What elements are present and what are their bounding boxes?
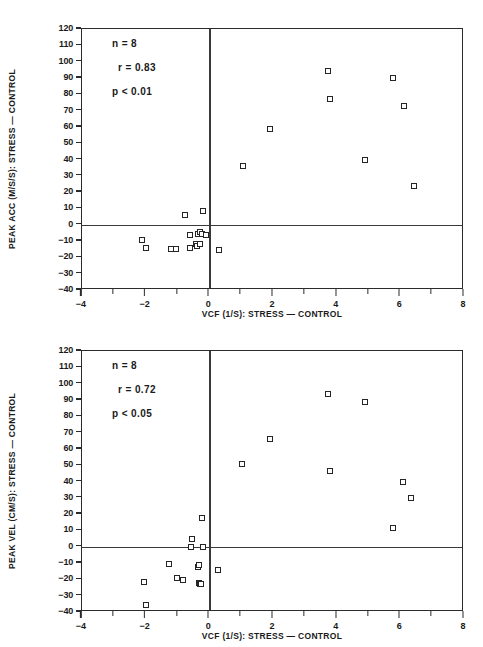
data-point-marker xyxy=(174,575,180,581)
y-tick-label: 50 xyxy=(63,137,76,147)
data-point-marker xyxy=(203,232,209,238)
data-point-marker xyxy=(187,245,193,251)
y-tick: 10 xyxy=(0,202,81,212)
x-tick-mark xyxy=(208,289,209,296)
x-tick xyxy=(431,611,432,616)
y-tick: 10 xyxy=(0,524,81,534)
reference-line-horizontal xyxy=(82,547,462,548)
data-point-marker xyxy=(390,525,396,531)
x-tick-mark xyxy=(240,611,241,616)
y-tick-label: 80 xyxy=(63,88,76,98)
x-tick: 2 xyxy=(269,289,274,309)
data-point-marker xyxy=(325,68,331,74)
x-tick-label: 6 xyxy=(397,299,402,309)
y-tick: −30 xyxy=(0,268,81,278)
data-point-marker xyxy=(239,461,245,467)
y-tick: 40 xyxy=(0,476,81,486)
data-point-marker xyxy=(327,468,333,474)
chart-panel-peak-vel: PEAK VEL (CM/S): STRESS — CONTROL 120110… xyxy=(0,322,483,647)
x-tick-label: 2 xyxy=(269,621,274,631)
y-tick-label: −10 xyxy=(58,557,76,567)
x-tick: −2 xyxy=(140,611,150,631)
y-tick-label: 70 xyxy=(63,427,76,437)
y-tick-label: 80 xyxy=(63,410,76,420)
y-tick-label: 100 xyxy=(59,378,76,388)
y-tick: 20 xyxy=(0,186,81,196)
y-tick-label: −10 xyxy=(58,235,76,245)
x-tick-mark xyxy=(112,289,113,294)
x-tick-label: 6 xyxy=(397,621,402,631)
y-tick-label: 10 xyxy=(63,524,76,534)
y-tick-label: −40 xyxy=(58,284,76,294)
x-tick xyxy=(367,289,368,294)
x-tick-label: −2 xyxy=(140,621,150,631)
x-tick-mark xyxy=(112,611,113,616)
x-tick xyxy=(240,289,241,294)
data-point-marker xyxy=(189,536,195,542)
data-point-marker xyxy=(200,208,206,214)
y-tick: 110 xyxy=(0,361,81,371)
data-point-marker xyxy=(200,544,206,550)
y-tick-label: −40 xyxy=(58,606,76,616)
x-tick-label: −4 xyxy=(76,299,86,309)
data-point-marker xyxy=(180,577,186,583)
y-tick-label: −30 xyxy=(58,268,76,278)
x-tick-mark xyxy=(240,289,241,294)
y-tick: 20 xyxy=(0,508,81,518)
y-tick-label: 30 xyxy=(63,492,76,502)
data-point-marker xyxy=(240,163,246,169)
x-tick-label: 4 xyxy=(333,299,338,309)
x-tick xyxy=(431,289,432,294)
x-tick xyxy=(176,611,177,616)
y-tick: −40 xyxy=(0,606,81,616)
x-tick: −4 xyxy=(76,611,86,631)
x-tick-label: 4 xyxy=(333,621,338,631)
data-point-marker xyxy=(199,515,205,521)
y-tick-label: 40 xyxy=(63,476,76,486)
x-tick xyxy=(303,289,304,294)
y-tick: 0 xyxy=(0,219,81,229)
data-point-marker xyxy=(197,241,203,247)
x-tick: −4 xyxy=(76,289,86,309)
data-point-marker xyxy=(196,562,202,568)
figure-page: PEAK ACC (M/S/S): STRESS — CONTROL 12011… xyxy=(0,0,483,647)
y-tick-label: 40 xyxy=(63,154,76,164)
data-point-marker xyxy=(141,579,147,585)
y-tick: 120 xyxy=(0,23,81,33)
data-point-marker xyxy=(390,75,396,81)
x-tick-label: 2 xyxy=(269,299,274,309)
stat-p-bottom: p < 0.05 xyxy=(112,408,156,419)
y-tick: −40 xyxy=(0,284,81,294)
data-point-marker xyxy=(143,602,149,608)
y-tick-label: 0 xyxy=(68,541,76,551)
x-tick-mark xyxy=(144,289,145,296)
x-tick-mark xyxy=(462,611,463,618)
y-tick-label: 60 xyxy=(63,443,76,453)
y-tick: 50 xyxy=(0,137,81,147)
y-tick-label: 10 xyxy=(63,202,76,212)
x-tick-mark xyxy=(208,611,209,618)
data-point-marker xyxy=(327,96,333,102)
x-tick: −2 xyxy=(140,289,150,309)
reference-line-horizontal xyxy=(82,225,462,226)
y-tick: 70 xyxy=(0,427,81,437)
stat-r-top: r = 0.83 xyxy=(118,62,156,73)
y-tick: −20 xyxy=(0,573,81,583)
y-tick: 80 xyxy=(0,88,81,98)
x-tick-mark xyxy=(144,611,145,618)
y-tick: 30 xyxy=(0,492,81,502)
stats-annotations-bottom: n = 8 r = 0.72 p < 0.05 xyxy=(112,360,156,419)
reference-line-vertical xyxy=(209,351,210,610)
x-tick-mark xyxy=(80,289,81,296)
y-tick-label: 50 xyxy=(63,459,76,469)
x-tick: 2 xyxy=(269,611,274,631)
y-tick-label: 90 xyxy=(63,394,76,404)
x-tick-mark xyxy=(335,611,336,618)
y-tick: 100 xyxy=(0,56,81,66)
y-tick: 70 xyxy=(0,105,81,115)
x-tick-label: 8 xyxy=(460,299,465,309)
x-tick-mark xyxy=(431,611,432,616)
x-tick: 4 xyxy=(333,289,338,309)
x-tick-mark xyxy=(431,289,432,294)
x-axis-title-top: VCF (1/S): STRESS — CONTROL xyxy=(81,309,463,319)
